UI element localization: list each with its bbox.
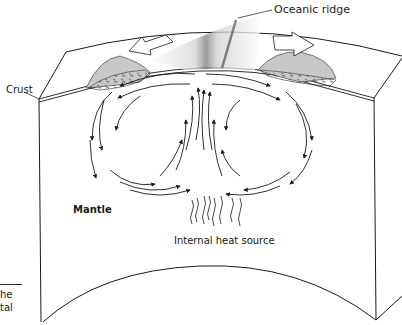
crust-label: Crust <box>6 85 33 95</box>
caption-fragment-1: he <box>0 290 13 300</box>
right-convection-cell <box>202 74 312 195</box>
mantle-convection-diagram: Oceanic ridge Crust Mantle Internal heat… <box>0 0 402 325</box>
heat-source-label: Internal heat source <box>174 236 275 246</box>
rising-heat-lines <box>191 196 242 226</box>
caption-rule <box>0 284 22 285</box>
right-crust-mound <box>258 52 336 86</box>
left-crust-mound <box>86 56 150 90</box>
caption-fragment-2: tal <box>0 303 13 313</box>
block-diagram-graphic <box>0 0 402 325</box>
oceanic-ridge-label: Oceanic ridge <box>274 4 350 15</box>
left-convection-cell <box>90 73 200 195</box>
mantle-label: Mantle <box>73 205 112 215</box>
